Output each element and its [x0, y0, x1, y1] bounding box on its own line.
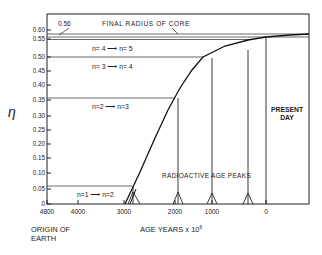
n12-label: n=1 ⟶ n=2 — [77, 191, 114, 198]
y-tick-label: 0.15 — [33, 154, 46, 161]
y-axis-label-eta: η — [8, 104, 16, 120]
y-tick-labels: 00.050.100.150.200.250.300.350.400.450.5… — [33, 26, 46, 207]
chart: 00.050.100.150.200.250.300.350.400.450.5… — [0, 0, 322, 255]
x-tick-label: 1000 — [205, 208, 220, 215]
y-tick-label: 0.50 — [33, 53, 46, 60]
y-tick-label: 0.35 — [33, 96, 46, 103]
x-tick-label: 3000 — [117, 208, 132, 215]
x-tick-label: 2000 — [168, 208, 183, 215]
x-tick-labels: 480040003000200010000 — [40, 208, 268, 215]
x-tick-label: 4000 — [71, 208, 86, 215]
n23-label: n=2 ⟶ n=3 — [92, 103, 129, 110]
y-tick-label: 0.60 — [33, 26, 46, 33]
y-tick-label: 0.55 — [33, 35, 46, 42]
y-tick-label: 0.05 — [33, 185, 46, 192]
y-tick-label: 0.25 — [33, 126, 46, 133]
final-radius-pointer — [172, 28, 178, 34]
y-tick-label: 0.10 — [33, 169, 46, 176]
n45-label: n= 4 ⟶ n= 5 — [92, 45, 133, 52]
origin-label-line2: EARTH — [31, 234, 56, 243]
chart-svg: 00.050.100.150.200.250.300.350.400.450.5… — [0, 0, 322, 255]
origin-label-line1: ORIGIN OF — [31, 225, 71, 234]
y-tick-label: 0.40 — [33, 81, 46, 88]
y-tick-label: 0.45 — [33, 67, 46, 74]
y-tick-label: 0.20 — [33, 140, 46, 147]
present-label-line2: DAY — [280, 114, 294, 121]
final-value-label: 0.56 — [58, 20, 71, 27]
final-radius-label: FINAL RADIUS OF CORE — [102, 20, 190, 27]
y-tick-label: 0 — [41, 200, 45, 207]
x-axis-label: AGE YEARS x 106 — [140, 224, 202, 234]
x-tick-label: 0 — [264, 208, 268, 215]
present-label-line1: PRESENT — [271, 106, 304, 113]
y-axis — [47, 30, 51, 204]
x-axis — [47, 200, 266, 204]
n34-label: n= 3 ⟶ n= 4 — [92, 63, 133, 70]
x-tick-label: 4800 — [40, 208, 55, 215]
radioactive-peaks-label: RADIOACTIVE AGE PEAKS — [162, 172, 251, 179]
y-tick-label: 0.30 — [33, 112, 46, 119]
